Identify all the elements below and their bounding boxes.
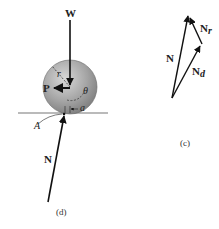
nd-label: Nd bbox=[192, 65, 206, 79]
figure-d: W P r θ a A N (d) bbox=[18, 7, 108, 217]
offset-label: a bbox=[80, 102, 85, 113]
contact-label: A bbox=[33, 120, 41, 131]
normal-label: N bbox=[44, 153, 52, 165]
contact-leader bbox=[38, 114, 62, 124]
figure-c: N Nr Nd (c) bbox=[166, 16, 212, 148]
caption-c: (c) bbox=[180, 138, 190, 148]
push-label: P bbox=[43, 82, 50, 94]
contact-point bbox=[63, 113, 66, 116]
angle-label: θ bbox=[83, 85, 88, 96]
caption-d: (d) bbox=[56, 207, 67, 217]
diagram-canvas: W P r θ a A N (d) N Nr Nd (c) bbox=[0, 0, 219, 229]
weight-label: W bbox=[65, 7, 76, 19]
n-label: N bbox=[166, 52, 174, 64]
vector-n bbox=[172, 16, 188, 98]
nr-label: Nr bbox=[200, 22, 212, 36]
radius-label: r bbox=[57, 68, 61, 79]
